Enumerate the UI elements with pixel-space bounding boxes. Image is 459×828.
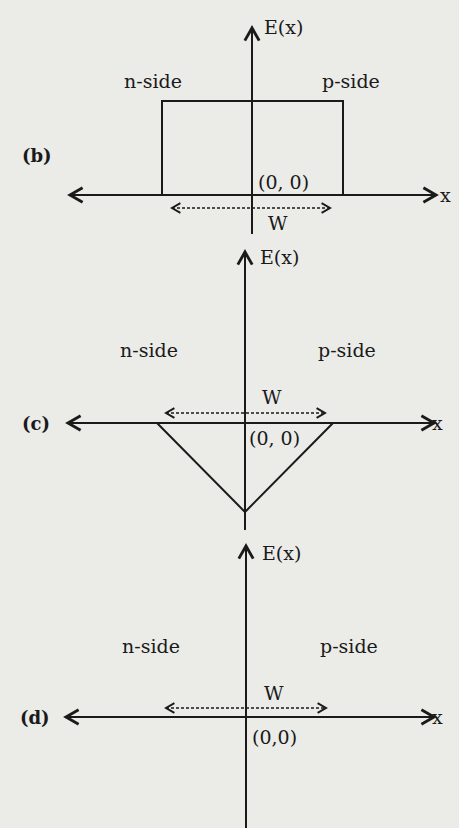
panel-b: E(x) x n-side p-side (0, 0) W (b) bbox=[22, 16, 451, 234]
width-label: W bbox=[264, 682, 284, 704]
panel-label: (b) bbox=[22, 145, 52, 166]
x-axis-label: x bbox=[432, 412, 443, 434]
panel-d: E(x) x n-side p-side W (0,0) (d) bbox=[20, 542, 443, 828]
panel-label: (c) bbox=[22, 413, 50, 434]
width-label: W bbox=[262, 386, 282, 408]
origin-label: (0, 0) bbox=[258, 171, 309, 193]
origin-label: (0,0) bbox=[252, 726, 297, 748]
p-side-label: p-side bbox=[320, 635, 378, 657]
width-label: W bbox=[268, 212, 288, 234]
n-side-label: n-side bbox=[120, 339, 178, 361]
x-axis-label: x bbox=[432, 706, 443, 728]
y-axis-label: E(x) bbox=[262, 542, 301, 564]
origin-label: (0, 0) bbox=[249, 427, 300, 449]
x-axis-label: x bbox=[440, 184, 451, 206]
panel-label: (d) bbox=[20, 707, 50, 728]
y-axis-label: E(x) bbox=[260, 246, 299, 268]
n-side-label: n-side bbox=[124, 70, 182, 92]
y-axis-label: E(x) bbox=[264, 16, 303, 38]
n-side-label: n-side bbox=[122, 635, 180, 657]
p-side-label: p-side bbox=[322, 70, 380, 92]
junction-field-diagrams: E(x) x n-side p-side (0, 0) W (b) E(x) x… bbox=[0, 0, 459, 828]
p-side-label: p-side bbox=[318, 339, 376, 361]
panel-c: E(x) x n-side p-side W (0, 0) (c) bbox=[22, 246, 443, 530]
